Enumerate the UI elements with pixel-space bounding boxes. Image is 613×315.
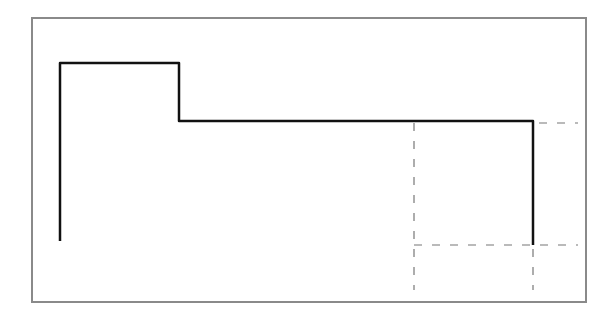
step-profile-line bbox=[60, 63, 533, 245]
diagram-canvas bbox=[0, 0, 613, 315]
diagram-frame bbox=[32, 18, 586, 302]
dashed-guide-lines bbox=[414, 123, 578, 290]
